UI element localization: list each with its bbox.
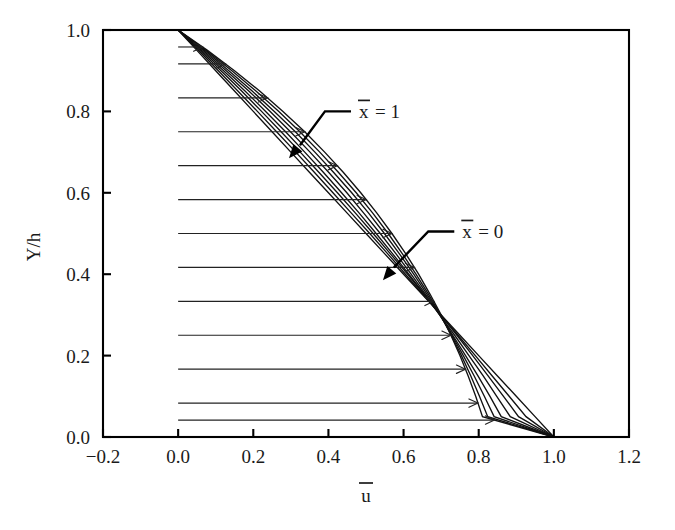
x-tick-label-5: 0.8 bbox=[467, 446, 491, 467]
chart-canvas: −0.20.00.20.40.60.81.01.20.00.20.40.60.8… bbox=[0, 0, 675, 530]
y-tick-label-0: 0.0 bbox=[66, 427, 90, 448]
annotation-value-xbar-1: = 1 bbox=[375, 101, 400, 122]
velocity-profile-figure: −0.20.00.20.40.60.81.01.20.00.20.40.60.8… bbox=[0, 0, 675, 530]
y-tick-label-4: 0.8 bbox=[66, 101, 90, 122]
annotation-value-xbar-0: = 0 bbox=[478, 221, 503, 242]
x-tick-label-3: 0.4 bbox=[317, 446, 341, 467]
y-axis-title-text: Y/h bbox=[23, 232, 44, 261]
x-tick-label-6: 1.0 bbox=[542, 446, 566, 467]
y-tick-label-2: 0.4 bbox=[66, 264, 90, 285]
x-tick-label-2: 0.2 bbox=[241, 446, 265, 467]
x-tick-label-4: 0.6 bbox=[392, 446, 416, 467]
y-tick-label-1: 0.2 bbox=[66, 346, 90, 367]
y-tick-label-5: 1.0 bbox=[66, 20, 90, 41]
annotation-symbol-xbar-1: x bbox=[359, 101, 369, 122]
x-tick-label-1: 0.0 bbox=[166, 446, 190, 467]
annotation-symbol-xbar-0: x bbox=[462, 221, 472, 242]
y-axis-title: Y/h bbox=[23, 232, 44, 261]
x-axis-title-text: u bbox=[361, 485, 371, 506]
x-tick-label-7: 1.2 bbox=[617, 446, 641, 467]
x-tick-label-0: −0.2 bbox=[86, 446, 120, 467]
y-tick-label-3: 0.6 bbox=[66, 183, 90, 204]
